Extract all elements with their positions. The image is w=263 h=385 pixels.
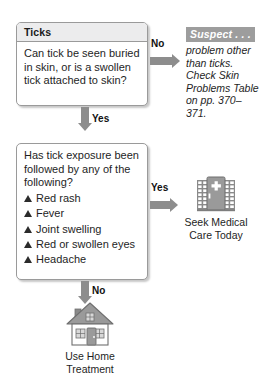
hospital-icon bbox=[196, 176, 236, 214]
house-icon bbox=[64, 300, 116, 348]
arrowhead-right-icon bbox=[170, 198, 178, 212]
arrowhead-right-icon bbox=[172, 54, 180, 68]
home-caption: Use Home Treatment bbox=[42, 350, 138, 375]
symptom-label: Fever bbox=[36, 207, 64, 219]
suspect-outcome-panel: Suspect . . . problem other than ticks. … bbox=[186, 24, 260, 120]
hospital-caption: Seek Medical Care Today bbox=[178, 216, 254, 241]
connector-shaft bbox=[81, 281, 89, 296]
symptom-label: Joint swelling bbox=[36, 223, 101, 235]
list-item: Headache bbox=[24, 252, 141, 267]
connector-label-symptom-no: No bbox=[92, 285, 105, 296]
symptom-label: Headache bbox=[36, 253, 86, 265]
symptom-label: Red rash bbox=[36, 192, 81, 204]
hospital-caption-line1: Seek Medical bbox=[184, 216, 247, 228]
triangle-bullet-icon bbox=[24, 195, 32, 202]
symptom-question-box[interactable]: Has tick exposure been followed by any o… bbox=[16, 143, 148, 280]
ticks-box-body: Can tick be seen buried in skin, or is a… bbox=[17, 42, 147, 92]
symptom-list: Red rash Fever Joint swelling Red or swo… bbox=[24, 191, 141, 268]
connector-label-ticks-yes: Yes bbox=[92, 113, 109, 124]
list-item: Fever bbox=[24, 206, 141, 221]
connector-shaft bbox=[150, 201, 170, 209]
seek-medical-care-outcome[interactable]: Seek Medical Care Today bbox=[178, 176, 254, 241]
home-caption-line2: Treatment bbox=[66, 363, 113, 375]
hospital-caption-line2: Care Today bbox=[189, 229, 243, 241]
triangle-bullet-icon bbox=[24, 241, 32, 248]
triangle-bullet-icon bbox=[24, 210, 32, 217]
connector-label-symptom-yes: Yes bbox=[151, 182, 168, 193]
ticks-box-header: Ticks bbox=[17, 23, 147, 42]
use-home-treatment-outcome[interactable]: Use Home Treatment bbox=[42, 300, 138, 375]
connector-shaft bbox=[150, 57, 172, 65]
connector-label-ticks-no: No bbox=[151, 38, 164, 49]
home-caption-line1: Use Home bbox=[65, 350, 115, 362]
symptom-box-body: Has tick exposure been followed by any o… bbox=[17, 144, 147, 272]
triangle-bullet-icon bbox=[24, 226, 32, 233]
list-item: Red rash bbox=[24, 191, 141, 206]
symptom-question-text: Has tick exposure been followed by any o… bbox=[24, 149, 141, 190]
triangle-bullet-icon bbox=[24, 256, 32, 263]
connector-shaft bbox=[81, 107, 89, 123]
ticks-question-text: Can tick be seen buried in skin, or is a… bbox=[24, 47, 141, 88]
suspect-header: Suspect . . . bbox=[186, 27, 255, 42]
symptom-label: Red or swollen eyes bbox=[36, 238, 135, 250]
list-item: Joint swelling bbox=[24, 222, 141, 237]
connector-ticks-no bbox=[150, 52, 184, 70]
arrowhead-down-icon bbox=[78, 123, 92, 131]
list-item: Red or swollen eyes bbox=[24, 237, 141, 252]
suspect-body-text: problem other than ticks. Check Skin Pro… bbox=[186, 44, 260, 120]
ticks-question-box[interactable]: Ticks Can tick be seen buried in skin, o… bbox=[16, 22, 148, 106]
